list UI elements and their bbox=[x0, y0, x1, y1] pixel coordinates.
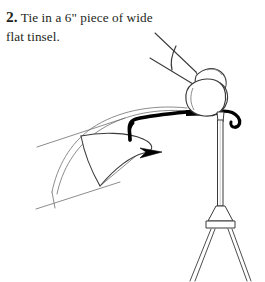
vise-legs bbox=[190, 229, 251, 281]
tinsel-body bbox=[81, 133, 152, 186]
thumb bbox=[186, 69, 228, 117]
vise-stem bbox=[218, 120, 224, 206]
vise-base bbox=[206, 206, 235, 228]
fly-tying-step-diagram bbox=[0, 0, 265, 282]
index-finger bbox=[150, 33, 198, 84]
illustration-page: 2. Tie in a 6" piece of wide flat tinsel… bbox=[0, 0, 265, 282]
